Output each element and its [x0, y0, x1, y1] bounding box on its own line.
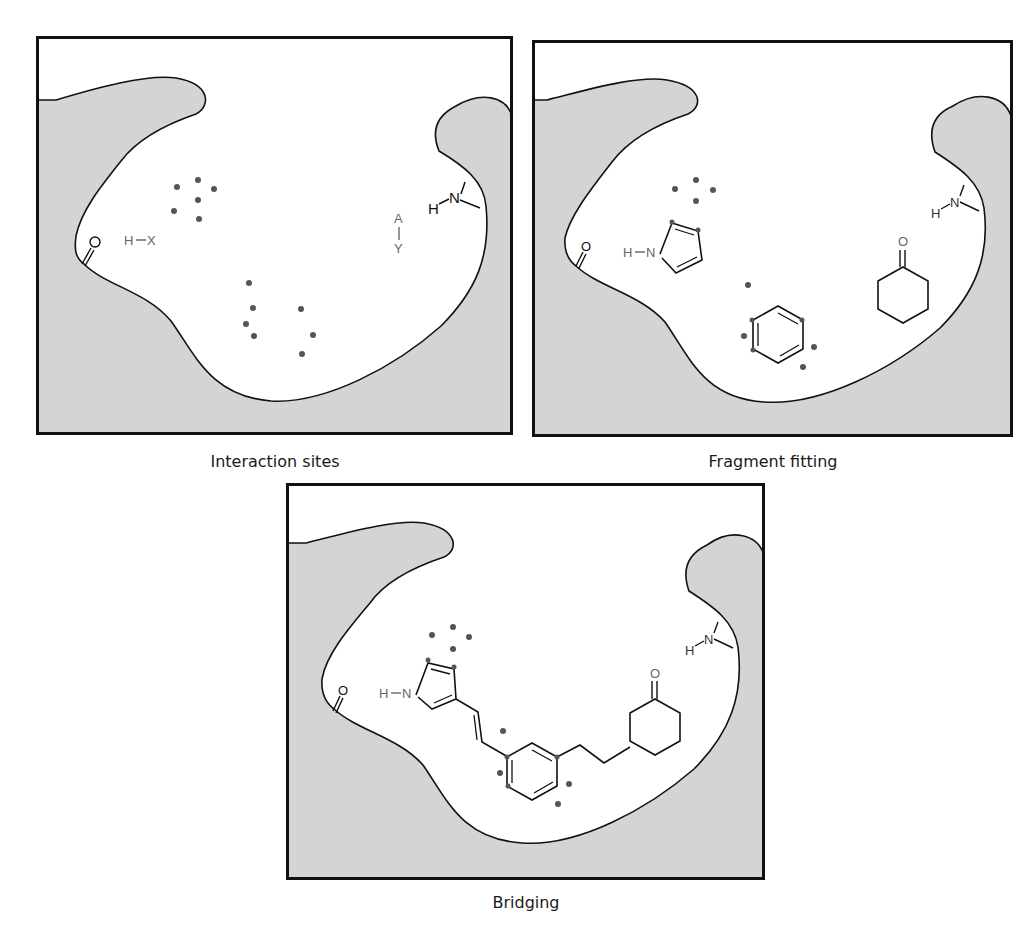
svg-text:Y: Y [394, 241, 403, 256]
binding-pocket-diagram: H X A Y H N [36, 36, 514, 436]
binding-pocket-diagram: O H N H N O [532, 40, 1014, 438]
svg-text:N: N [950, 195, 959, 210]
caption-interaction-sites: Interaction sites [36, 452, 514, 471]
panel-interaction-sites: H X A Y H N [36, 36, 514, 436]
svg-text:H: H [428, 200, 439, 217]
svg-text:N: N [704, 632, 713, 647]
svg-text:O: O [650, 666, 660, 681]
svg-text:N: N [449, 189, 460, 206]
svg-text:O: O [581, 239, 591, 254]
svg-text:H: H [685, 643, 694, 658]
svg-text:H: H [623, 245, 632, 260]
panel-fragment-fitting: O H N H N O [532, 40, 1014, 438]
svg-text:H: H [124, 233, 133, 248]
caption-bridging: Bridging [286, 893, 766, 912]
svg-text:X: X [147, 233, 156, 248]
svg-text:H: H [379, 686, 388, 701]
binding-pocket-diagram: O H N H N [286, 483, 766, 883]
svg-text:N: N [402, 686, 411, 701]
svg-text:A: A [394, 211, 403, 226]
svg-text:N: N [646, 245, 655, 260]
svg-text:O: O [898, 234, 908, 249]
svg-text:H: H [931, 206, 940, 221]
panel-bridging: O H N H N [286, 483, 766, 883]
svg-text:O: O [338, 683, 348, 698]
caption-fragment-fitting: Fragment fitting [532, 452, 1014, 471]
